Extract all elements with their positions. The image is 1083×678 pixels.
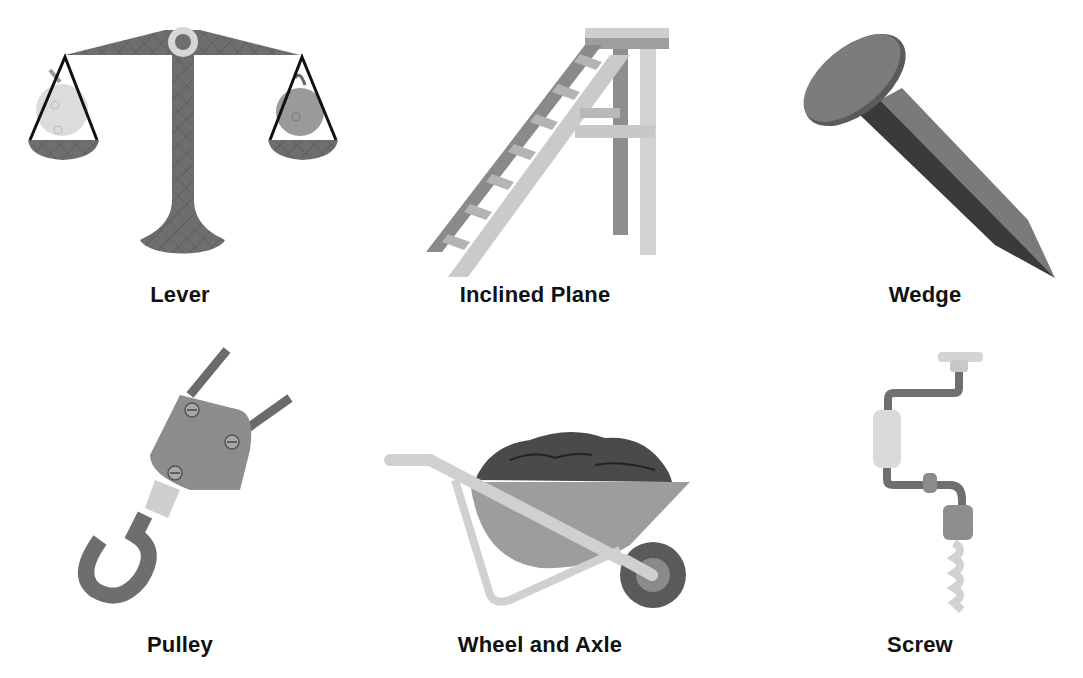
wheelbarrow-icon (370, 400, 710, 640)
lever-label: Lever (120, 282, 240, 308)
wheel-and-axle-item: Wheel and Axle (370, 400, 710, 678)
wedge-item: Wedge (760, 0, 1083, 320)
balance-scale-icon (0, 0, 360, 290)
hand-drill-icon (820, 340, 1020, 640)
screw-label: Screw (860, 632, 980, 658)
ladder-icon (380, 0, 710, 290)
pulley-item: Pulley (40, 340, 320, 678)
lever-item: Lever (0, 0, 360, 320)
wheel-and-axle-label: Wheel and Axle (430, 632, 650, 658)
wedge-label: Wedge (855, 282, 995, 308)
nail-icon (760, 0, 1083, 290)
inclined-plane-label: Inclined Plane (435, 282, 635, 308)
pulley-hook-icon (40, 340, 320, 640)
pulley-label: Pulley (120, 632, 240, 658)
inclined-plane-item: Inclined Plane (380, 0, 710, 320)
screw-item: Screw (820, 340, 1020, 678)
